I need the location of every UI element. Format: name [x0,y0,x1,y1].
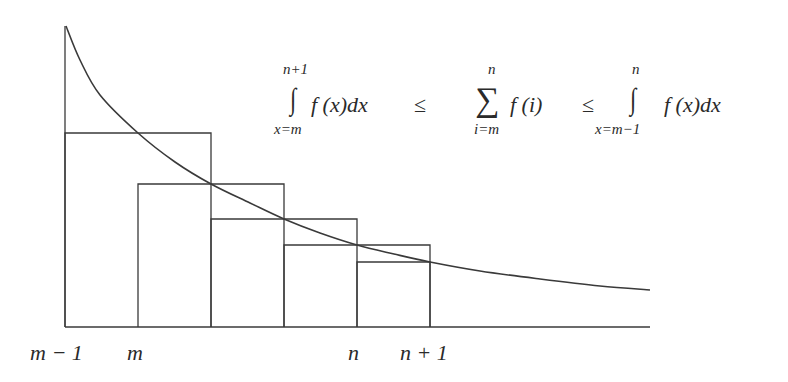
integral-2-symbol: ∫ [630,84,636,114]
x-label-0: m − 1 [30,342,83,364]
integral-1-upper-limit: n+1 [283,62,308,77]
lower-rect-5 [357,262,430,327]
sum-upper-limit: n [488,62,496,77]
integral-2-body: f (x)dx [664,94,721,116]
x-label-2: n [348,342,359,364]
integral-1-body: f (x)dx [311,94,368,116]
x-label-3: n + 1 [400,342,448,364]
integral-2-lower-limit: x=m−1 [595,122,640,137]
integral-1-symbol: ∫ [290,84,296,114]
sum-body: f (i) [510,94,542,116]
integral-2-upper-limit: n [632,62,640,77]
x-label-1: m [127,342,143,364]
sum-symbol: ∑ [475,83,499,117]
decreasing-function-curve [66,26,650,290]
leq-symbol-2: ≤ [582,94,594,116]
integral-test-diagram [0,0,788,382]
leq-symbol-1: ≤ [414,94,426,116]
rectangles-group [65,133,430,327]
sum-lower-limit: i=m [474,122,499,137]
integral-1-lower-limit: x=m [274,122,302,137]
